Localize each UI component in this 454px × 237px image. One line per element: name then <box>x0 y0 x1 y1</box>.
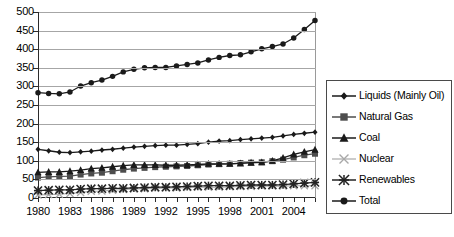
x-axis-tick <box>102 198 103 202</box>
y-axis-tick-label: 450 <box>0 25 34 36</box>
legend-marker-diamond-icon <box>331 87 357 105</box>
legend-item-renewables[interactable]: Renewables <box>327 169 451 190</box>
x-axis-tick <box>113 198 114 202</box>
y-axis-tick-label: 100 <box>0 155 34 166</box>
legend-item-natural-gas[interactable]: Natural Gas <box>327 106 451 127</box>
x-axis-tick <box>166 198 167 202</box>
gridline <box>38 161 316 162</box>
legend-item-coal[interactable]: Coal <box>327 127 451 148</box>
legend-item-label: Renewables <box>357 174 415 185</box>
x-axis-tick <box>38 198 39 202</box>
x-axis-tick <box>294 198 295 202</box>
y-axis-tick-label: 200 <box>0 118 34 129</box>
x-axis-tick <box>155 198 156 202</box>
legend-item-label: Total <box>357 195 380 206</box>
x-axis-tick <box>219 198 220 202</box>
gridline <box>38 105 316 106</box>
gridline <box>38 49 316 50</box>
y-axis-tick-label: 150 <box>0 136 34 147</box>
legend-item-label: Coal <box>357 132 380 143</box>
x-axis-tick <box>187 198 188 202</box>
gridline <box>38 86 316 87</box>
y-axis-tick-label: 400 <box>0 43 34 54</box>
gridline <box>38 31 316 32</box>
legend-marker-circle-icon <box>331 192 357 210</box>
x-axis-tick <box>272 198 273 202</box>
legend-marker-triangle-icon <box>331 129 357 147</box>
x-axis-tick <box>198 198 199 202</box>
chart-legend: Liquids (Mainly Oil)Natural GasCoalNucle… <box>326 80 452 214</box>
line-chart: Liquids (Mainly Oil)Natural GasCoalNucle… <box>0 0 454 237</box>
legend-item-label: Natural Gas <box>357 111 413 122</box>
x-axis-tick <box>70 198 71 202</box>
x-axis-tick <box>145 198 146 202</box>
legend-marker-square-icon <box>331 108 357 126</box>
gridline <box>38 142 316 143</box>
gridline <box>38 179 316 180</box>
legend-marker-x-light-icon <box>331 150 357 168</box>
gridline <box>38 124 316 125</box>
x-axis-tick <box>283 198 284 202</box>
x-axis-tick <box>177 198 178 202</box>
x-axis-tick-label: 2004 <box>274 205 314 217</box>
x-axis-tick <box>81 198 82 202</box>
legend-marker-star-icon <box>331 171 357 189</box>
x-axis-tick <box>59 198 60 202</box>
legend-item-nuclear[interactable]: Nuclear <box>327 148 451 169</box>
y-axis-tick-label: 250 <box>0 99 34 110</box>
y-axis-tick-label: 50 <box>0 173 34 184</box>
x-axis-tick <box>315 198 316 202</box>
y-axis-tick-label: 0 <box>0 192 34 203</box>
x-axis-tick <box>262 198 263 202</box>
x-axis-tick <box>49 198 50 202</box>
gridline <box>38 12 316 13</box>
legend-item-liquids-mainly-oil[interactable]: Liquids (Mainly Oil) <box>327 85 451 106</box>
x-axis-tick <box>240 198 241 202</box>
x-axis-tick <box>208 198 209 202</box>
y-axis-tick-label: 350 <box>0 62 34 73</box>
legend-item-label: Liquids (Mainly Oil) <box>357 90 444 101</box>
x-axis-tick <box>230 198 231 202</box>
y-axis-tick-label: 500 <box>0 6 34 17</box>
x-axis-tick <box>91 198 92 202</box>
x-axis-tick <box>304 198 305 202</box>
x-axis-tick <box>251 198 252 202</box>
x-axis-tick <box>123 198 124 202</box>
legend-item-label: Nuclear <box>357 153 394 164</box>
y-axis-tick-label: 300 <box>0 80 34 91</box>
gridline <box>38 68 316 69</box>
legend-item-total[interactable]: Total <box>327 190 451 211</box>
x-axis-tick <box>134 198 135 202</box>
